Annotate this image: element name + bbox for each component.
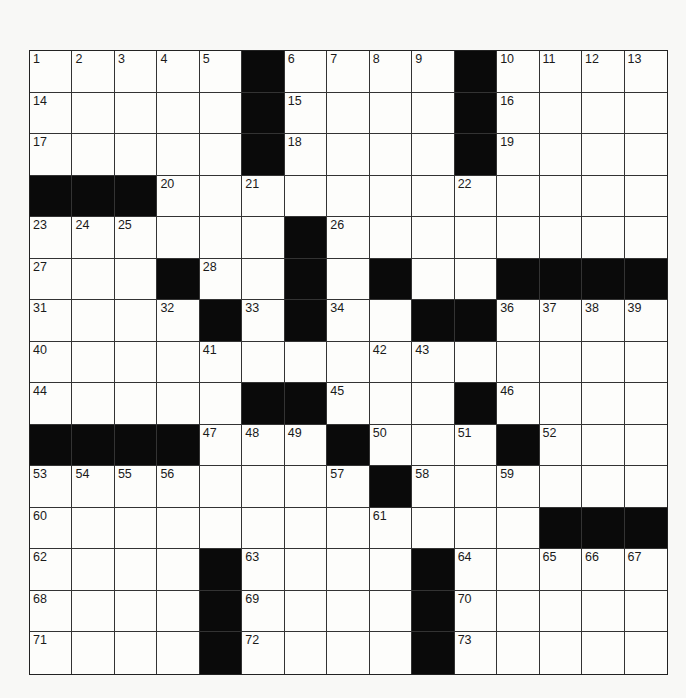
grid-cell-r5-c7[interactable] <box>327 259 369 301</box>
grid-cell-r1-c13[interactable] <box>582 93 624 135</box>
grid-cell-r0-c12[interactable]: 11 <box>540 51 582 93</box>
grid-cell-r4-c14[interactable] <box>625 217 667 259</box>
grid-cell-r14-c12[interactable] <box>540 632 582 674</box>
grid-cell-r14-c8[interactable] <box>370 632 412 674</box>
grid-cell-r14-c10[interactable]: 73 <box>455 632 497 674</box>
grid-cell-r3-c8[interactable] <box>370 176 412 218</box>
grid-cell-r6-c0[interactable]: 31 <box>30 300 72 342</box>
grid-cell-r6-c5[interactable]: 33 <box>242 300 284 342</box>
grid-cell-r7-c4[interactable]: 41 <box>200 342 242 384</box>
grid-cell-r6-c12[interactable]: 37 <box>540 300 582 342</box>
grid-cell-r9-c12[interactable]: 52 <box>540 425 582 467</box>
grid-cell-r9-c6[interactable]: 49 <box>285 425 327 467</box>
grid-cell-r6-c14[interactable]: 39 <box>625 300 667 342</box>
grid-cell-r6-c1[interactable] <box>72 300 114 342</box>
grid-cell-r2-c8[interactable] <box>370 134 412 176</box>
grid-cell-r2-c0[interactable]: 17 <box>30 134 72 176</box>
grid-cell-r6-c7[interactable]: 34 <box>327 300 369 342</box>
grid-cell-r13-c0[interactable]: 68 <box>30 591 72 633</box>
grid-cell-r13-c5[interactable]: 69 <box>242 591 284 633</box>
grid-cell-r7-c0[interactable]: 40 <box>30 342 72 384</box>
grid-cell-r4-c2[interactable]: 25 <box>115 217 157 259</box>
grid-cell-r13-c14[interactable] <box>625 591 667 633</box>
grid-cell-r7-c13[interactable] <box>582 342 624 384</box>
grid-cell-r5-c4[interactable]: 28 <box>200 259 242 301</box>
grid-cell-r4-c13[interactable] <box>582 217 624 259</box>
grid-cell-r6-c3[interactable]: 32 <box>157 300 199 342</box>
grid-cell-r14-c5[interactable]: 72 <box>242 632 284 674</box>
grid-cell-r2-c12[interactable] <box>540 134 582 176</box>
grid-cell-r11-c3[interactable] <box>157 508 199 550</box>
grid-cell-r13-c12[interactable] <box>540 591 582 633</box>
grid-cell-r7-c10[interactable] <box>455 342 497 384</box>
grid-cell-r8-c1[interactable] <box>72 383 114 425</box>
grid-cell-r1-c6[interactable]: 15 <box>285 93 327 135</box>
grid-cell-r0-c8[interactable]: 8 <box>370 51 412 93</box>
grid-cell-r5-c10[interactable] <box>455 259 497 301</box>
grid-cell-r3-c9[interactable] <box>412 176 454 218</box>
grid-cell-r14-c3[interactable] <box>157 632 199 674</box>
grid-cell-r10-c1[interactable]: 54 <box>72 466 114 508</box>
grid-cell-r10-c13[interactable] <box>582 466 624 508</box>
grid-cell-r10-c9[interactable]: 58 <box>412 466 454 508</box>
grid-cell-r7-c3[interactable] <box>157 342 199 384</box>
grid-cell-r7-c11[interactable] <box>497 342 539 384</box>
grid-cell-r6-c8[interactable] <box>370 300 412 342</box>
grid-cell-r12-c13[interactable]: 66 <box>582 549 624 591</box>
grid-cell-r9-c10[interactable]: 51 <box>455 425 497 467</box>
grid-cell-r6-c11[interactable]: 36 <box>497 300 539 342</box>
grid-cell-r12-c0[interactable]: 62 <box>30 549 72 591</box>
grid-cell-r4-c9[interactable] <box>412 217 454 259</box>
grid-cell-r11-c9[interactable] <box>412 508 454 550</box>
grid-cell-r3-c12[interactable] <box>540 176 582 218</box>
grid-cell-r10-c7[interactable]: 57 <box>327 466 369 508</box>
grid-cell-r14-c11[interactable] <box>497 632 539 674</box>
grid-cell-r9-c4[interactable]: 47 <box>200 425 242 467</box>
grid-cell-r12-c6[interactable] <box>285 549 327 591</box>
grid-cell-r2-c3[interactable] <box>157 134 199 176</box>
grid-cell-r5-c2[interactable] <box>115 259 157 301</box>
grid-cell-r0-c2[interactable]: 3 <box>115 51 157 93</box>
grid-cell-r3-c7[interactable] <box>327 176 369 218</box>
grid-cell-r12-c3[interactable] <box>157 549 199 591</box>
grid-cell-r2-c4[interactable] <box>200 134 242 176</box>
grid-cell-r6-c13[interactable]: 38 <box>582 300 624 342</box>
grid-cell-r2-c14[interactable] <box>625 134 667 176</box>
grid-cell-r0-c0[interactable]: 1 <box>30 51 72 93</box>
grid-cell-r3-c4[interactable] <box>200 176 242 218</box>
grid-cell-r0-c14[interactable]: 13 <box>625 51 667 93</box>
grid-cell-r0-c9[interactable]: 9 <box>412 51 454 93</box>
grid-cell-r10-c4[interactable] <box>200 466 242 508</box>
grid-cell-r1-c4[interactable] <box>200 93 242 135</box>
grid-cell-r1-c9[interactable] <box>412 93 454 135</box>
grid-cell-r8-c2[interactable] <box>115 383 157 425</box>
grid-cell-r8-c9[interactable] <box>412 383 454 425</box>
grid-cell-r0-c13[interactable]: 12 <box>582 51 624 93</box>
grid-cell-r11-c10[interactable] <box>455 508 497 550</box>
grid-cell-r12-c7[interactable] <box>327 549 369 591</box>
grid-cell-r8-c14[interactable] <box>625 383 667 425</box>
grid-cell-r6-c2[interactable] <box>115 300 157 342</box>
grid-cell-r0-c4[interactable]: 5 <box>200 51 242 93</box>
grid-cell-r3-c11[interactable] <box>497 176 539 218</box>
grid-cell-r7-c8[interactable]: 42 <box>370 342 412 384</box>
grid-cell-r12-c5[interactable]: 63 <box>242 549 284 591</box>
grid-cell-r2-c11[interactable]: 19 <box>497 134 539 176</box>
grid-cell-r5-c5[interactable] <box>242 259 284 301</box>
grid-cell-r8-c0[interactable]: 44 <box>30 383 72 425</box>
grid-cell-r11-c11[interactable] <box>497 508 539 550</box>
grid-cell-r5-c0[interactable]: 27 <box>30 259 72 301</box>
grid-cell-r9-c8[interactable]: 50 <box>370 425 412 467</box>
grid-cell-r10-c14[interactable] <box>625 466 667 508</box>
grid-cell-r13-c11[interactable] <box>497 591 539 633</box>
grid-cell-r3-c3[interactable]: 20 <box>157 176 199 218</box>
grid-cell-r8-c3[interactable] <box>157 383 199 425</box>
grid-cell-r11-c5[interactable] <box>242 508 284 550</box>
grid-cell-r4-c4[interactable] <box>200 217 242 259</box>
grid-cell-r3-c10[interactable]: 22 <box>455 176 497 218</box>
grid-cell-r0-c6[interactable]: 6 <box>285 51 327 93</box>
grid-cell-r2-c2[interactable] <box>115 134 157 176</box>
grid-cell-r0-c11[interactable]: 10 <box>497 51 539 93</box>
grid-cell-r14-c14[interactable] <box>625 632 667 674</box>
grid-cell-r4-c7[interactable]: 26 <box>327 217 369 259</box>
